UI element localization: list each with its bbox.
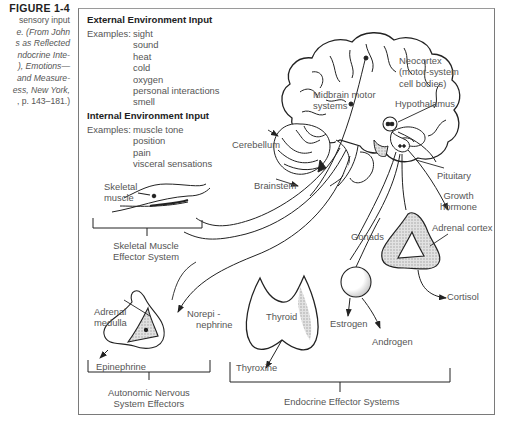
list-item: position [133,135,212,146]
label-norepinephrine: Norepi - nephrine [187,308,233,331]
external-examples-label: Examples: [87,28,131,39]
label-autonomic-nervous-system-effectors: Autonomic Nervous System Effectors [108,387,190,410]
label-pituitary: Pituitary [437,170,471,181]
internal-examples-list: muscle tone position pain visceral sensa… [133,124,212,170]
list-item: oxygen [133,74,220,85]
label-gonads: Gonads [351,231,384,242]
hypothalamus-shape [383,117,397,131]
label-skeletal-muscle-effector-system: Skeletal Muscle Effector System [113,240,179,263]
internal-examples-label: Examples: [87,124,131,135]
label-midbrain-motor-systems: Midbrain motor systems [313,89,376,112]
list-item: pain [133,147,212,158]
internal-input-heading: Internal Environment Input [87,110,209,121]
label-skeletal-muscle: Skeletal muscle [104,181,137,204]
cerebellum-shape [274,124,330,174]
list-item: sight [133,28,220,39]
list-item: heat [133,51,220,62]
label-epinephrine: Epinephrine [96,361,146,372]
list-item: personal interactions [133,85,220,96]
list-item: cold [133,62,220,73]
label-cerebellum: Cerebellum [232,139,280,150]
gonad-sphere [341,267,371,297]
list-item: sound [133,39,220,50]
label-endocrine-effector-systems: Endocrine Effector Systems [284,396,400,407]
label-hypothalamus: Hypothalamus [395,98,455,109]
label-androgen: Androgen [372,336,413,347]
label-neocortex: Neocortex (motor-system cell bodies) [399,55,459,89]
label-adrenal-cortex: Adrenal cortex [432,222,492,233]
list-item: visceral sensations [133,158,212,169]
label-adrenal-medulla: Adrenal medulla [94,306,127,329]
label-thyroxine: Thyroxine [236,362,277,373]
list-item: smell [133,96,220,107]
external-examples-list: sight sound heat cold oxygen personal in… [133,28,220,108]
list-item: muscle tone [133,124,212,135]
label-cortisol: Cortisol [447,291,479,302]
label-growth-hormone: Growth hormone [440,190,477,213]
label-estrogen: Estrogen [330,318,368,329]
label-brainstem: Brainstem [254,180,296,191]
external-input-heading: External Environment Input [87,14,212,25]
label-thyroid: Thyroid [266,311,297,322]
